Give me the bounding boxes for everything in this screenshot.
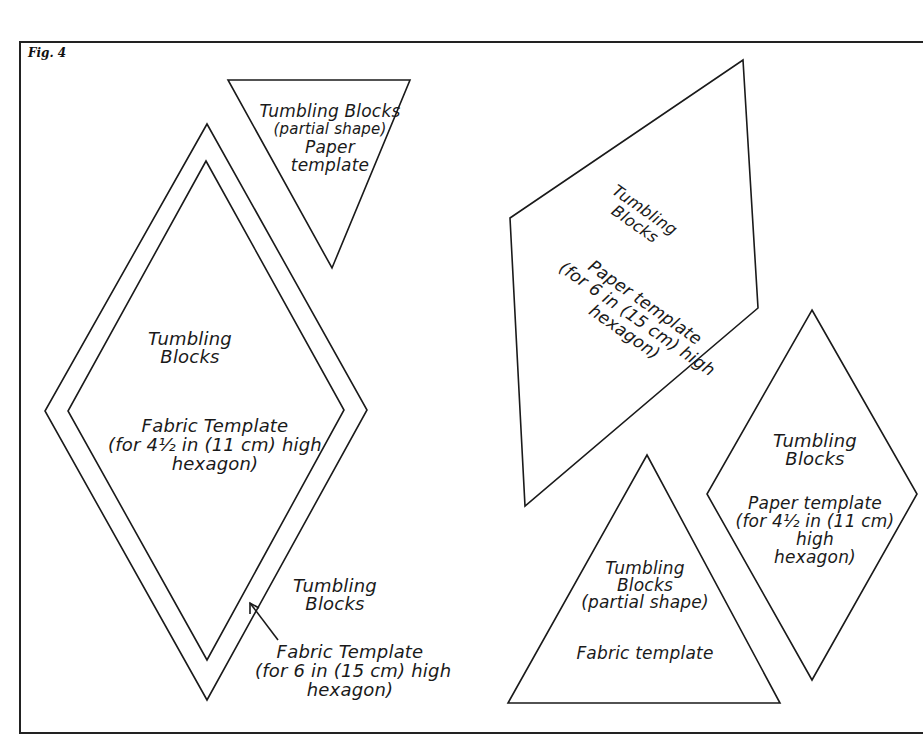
desc-line-3: hexagon) bbox=[255, 680, 445, 699]
title-line-2: Blocks bbox=[765, 450, 865, 468]
desc-line-1: Fabric Template bbox=[100, 416, 330, 435]
small-diamond-desc: Paper template (for 4½ in (11 cm) high h… bbox=[735, 494, 895, 566]
large-diamond-outer-title: Tumbling Blocks bbox=[290, 577, 380, 613]
desc-line-2: (for 4½ in (11 cm) bbox=[735, 512, 895, 530]
desc-line-2: (for 6 in (15 cm) high bbox=[255, 661, 445, 680]
desc-line-1: Paper template bbox=[735, 494, 895, 512]
desc-line-4: hexagon) bbox=[735, 548, 895, 566]
large-diamond-inner-title: Tumbling Blocks bbox=[140, 330, 240, 366]
pointer-arrow-line bbox=[250, 603, 278, 640]
bottom-triangle-desc: Fabric template bbox=[570, 645, 720, 662]
title-line-2: Blocks bbox=[140, 348, 240, 366]
figure-label: Fig. 4 bbox=[28, 46, 66, 60]
title-line-3: (partial shape) bbox=[575, 594, 715, 611]
top-triangle-line-2: (partial shape) bbox=[250, 120, 410, 138]
figure-canvas: Fig. 4 Tumbling Blocks (partial shape) P… bbox=[0, 0, 923, 755]
title-line-2: Blocks bbox=[290, 595, 380, 613]
desc-line-1: Fabric template bbox=[570, 645, 720, 662]
desc-line-2: (for 4½ in (11 cm) high bbox=[100, 435, 330, 454]
top-triangle-label: Tumbling Blocks (partial shape) Paper te… bbox=[250, 102, 410, 174]
desc-line-1: Fabric Template bbox=[255, 642, 445, 661]
figure-drawing bbox=[0, 0, 923, 755]
top-triangle-line-1: Tumbling Blocks bbox=[250, 102, 410, 120]
top-triangle-line-4: template bbox=[250, 156, 410, 174]
desc-line-3: high bbox=[735, 530, 895, 548]
large-diamond-outer-desc: Fabric Template (for 6 in (15 cm) high h… bbox=[255, 642, 445, 699]
small-diamond-title: Tumbling Blocks bbox=[765, 432, 865, 468]
figure-frame bbox=[20, 42, 923, 733]
bottom-triangle-title: Tumbling Blocks (partial shape) bbox=[575, 560, 715, 611]
large-diamond-inner-desc: Fabric Template (for 4½ in (11 cm) high … bbox=[100, 416, 330, 473]
top-triangle-line-3: Paper bbox=[250, 138, 410, 156]
desc-line-3: hexagon) bbox=[100, 454, 330, 473]
